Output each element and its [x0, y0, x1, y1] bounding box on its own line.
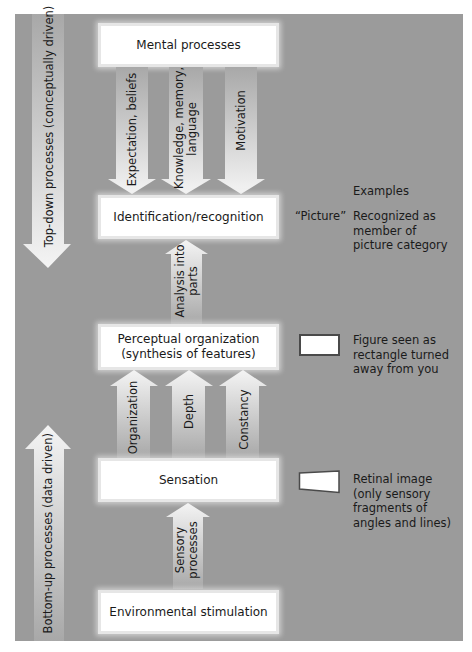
mental-processes-box: Mental processes — [101, 26, 276, 64]
recognized-example: Recognized as member of picture category — [353, 209, 448, 253]
bottom-up-label: Bottom-up processes (data driven) — [42, 434, 55, 634]
examples-heading: Examples — [353, 184, 409, 199]
retinal-example: Retinal image (only sensory fragments of… — [353, 472, 451, 530]
figure-example: Figure seen as rectangle turned away fro… — [353, 333, 449, 377]
organization-label: Organization — [127, 378, 140, 458]
depth-label: Depth — [183, 372, 196, 452]
rectangle-example-icon — [299, 334, 340, 356]
top-down-label: Top-down processes (conceptually driven) — [43, 2, 56, 252]
perceptual-organization-box: Perceptual organization (synthesis of fe… — [101, 327, 276, 367]
expectation-label: Expectation, beliefs — [126, 70, 139, 190]
environmental-stimulation-box: Environmental stimulation — [101, 593, 276, 631]
sensation-box: Sensation — [101, 461, 276, 499]
mental-processes-label: Mental processes — [136, 38, 240, 53]
perceptual-organization-label: Perceptual organization (synthesis of fe… — [118, 332, 260, 362]
picture-quote: “Picture” — [295, 209, 346, 224]
sensory-processes-label: Sensory processes — [174, 510, 200, 590]
analysis-label: Analysis into parts — [174, 231, 200, 331]
identification-label: Identification/recognition — [113, 210, 263, 225]
constancy-label: Constancy — [238, 380, 251, 460]
environmental-stimulation-label: Environmental stimulation — [109, 605, 267, 620]
retinal-trapezoid-icon — [298, 470, 342, 494]
motivation-label: Motivation — [235, 61, 248, 181]
sensation-label: Sensation — [159, 473, 218, 488]
knowledge-label: Knowledge, memory, language — [173, 69, 199, 189]
